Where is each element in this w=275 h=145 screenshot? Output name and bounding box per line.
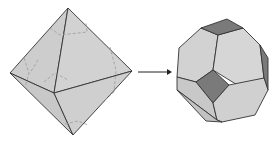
right-arrow-icon — [138, 69, 172, 75]
octahedron — [10, 8, 132, 135]
diagram-canvas — [0, 0, 275, 145]
truncated-octahedron — [177, 19, 268, 122]
